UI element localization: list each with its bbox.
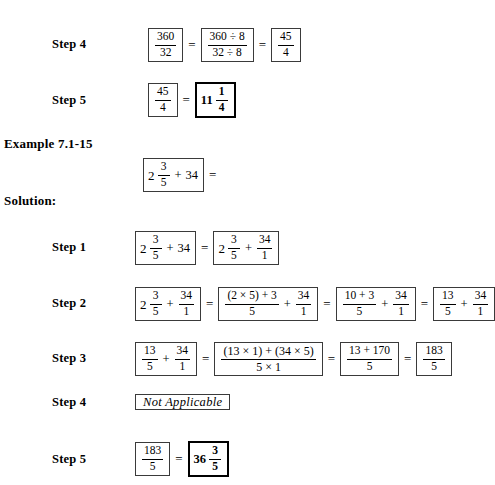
fraction-45-over-4: 45 4	[276, 30, 296, 59]
fraction-183-over-5: 183 5	[421, 344, 446, 373]
row-step-2: Step 2 2 3 5 + 34 1 = (2 × 5) +	[0, 281, 465, 327]
example-heading: Example 7.1-15	[4, 136, 93, 152]
fraction-3-over-5: 3 5	[226, 233, 242, 262]
fraction-box-360-32: 360 32	[148, 28, 183, 61]
plus-sign: +	[164, 298, 177, 311]
fraction-34-over-1: 34 1	[255, 233, 275, 262]
equals-sign: =	[399, 351, 416, 367]
whole-number: 2	[140, 242, 148, 255]
addend: 34	[177, 242, 192, 255]
denominator: 5	[247, 305, 257, 319]
box-mixed-2-3-5-plus-34: 2 3 5 + 34	[135, 231, 196, 264]
fraction-13-over-5: 13 5	[438, 289, 458, 318]
box-step2-term-1: 2 3 5 + 34 1	[135, 287, 201, 320]
whole-number: 36	[194, 453, 208, 466]
row-top-step-4: Step 4 360 32 = 360 ÷ 8 32 ÷ 8 =	[0, 22, 465, 68]
trailing-equals-sign: =	[204, 167, 216, 183]
step-label-2: Step 2	[52, 296, 86, 311]
numerator: 13	[440, 289, 456, 303]
step-label-top-5: Step 5	[52, 93, 86, 108]
row-step-3: Step 3 13 5 + 34 1 = (13 × 1) + (34 × 5)	[0, 336, 465, 382]
numerator: 3	[151, 233, 161, 247]
numerator: 3	[229, 233, 239, 247]
denominator: 1	[299, 305, 309, 319]
equals-sign: =	[318, 296, 335, 312]
fraction-34-over-1: 34 1	[391, 289, 411, 318]
equals-sign: =	[254, 37, 271, 53]
plus-sign: +	[378, 298, 391, 311]
numerator: 34	[179, 289, 195, 303]
whole-number: 2	[140, 298, 148, 311]
box-step3-term-3: 13 + 170 5	[340, 342, 399, 375]
row-step-4: Step 4 Not Applicable	[0, 390, 465, 414]
row-example-heading: Example 7.1-15	[0, 135, 465, 153]
expression-step-4: Not Applicable	[135, 390, 230, 414]
denominator: 5	[355, 305, 365, 319]
denominator: 1	[476, 305, 486, 319]
numerator: (2 × 5) + 3	[225, 289, 278, 303]
step-label-4: Step 4	[52, 395, 86, 410]
denominator: 5	[429, 360, 439, 374]
not-applicable-text: Not Applicable	[140, 396, 225, 409]
numerator: 34	[175, 344, 191, 358]
numerator: 3	[159, 160, 169, 174]
fraction-box-45-4: 45 4	[271, 28, 301, 61]
fraction-45-over-4: 45 4	[153, 85, 173, 114]
numerator: 183	[423, 344, 444, 358]
step-label-5: Step 5	[52, 452, 86, 467]
fraction-3-over-5: 3 5	[207, 444, 223, 473]
numerator: 360	[155, 30, 176, 44]
denominator: 1	[396, 305, 406, 319]
fraction-1-over-4: 1 4	[214, 85, 230, 114]
numerator: 1	[217, 85, 227, 99]
equals-sign: =	[323, 351, 340, 367]
numerator: 34	[296, 289, 312, 303]
plus-sign: +	[164, 242, 177, 255]
denominator: 1	[181, 305, 191, 319]
fraction-cross-multiply: (13 × 1) + (34 × 5) 5 × 1	[219, 344, 317, 374]
box-step2-term-3: 10 + 3 5 + 34 1	[336, 287, 416, 320]
denominator: 4	[281, 46, 291, 60]
numerator: 13	[142, 344, 158, 358]
step-label-1: Step 1	[52, 240, 86, 255]
expression-step-3: 13 5 + 34 1 = (13 × 1) + (34 × 5) 5 × 1	[135, 336, 452, 382]
box-step2-term-4: 13 5 + 34 1	[433, 287, 495, 320]
numerator: 3	[210, 444, 220, 458]
box-mixed-2-3-5-plus-34-over-1: 2 3 5 + 34 1	[213, 231, 279, 264]
denominator: 4	[158, 101, 168, 115]
row-step-1: Step 1 2 3 5 + 34 = 2 3 5 +	[0, 226, 465, 270]
box-step3-term-4: 183 5	[416, 342, 451, 375]
fraction-3-over-5: 3 5	[148, 233, 164, 262]
denominator: 1	[260, 249, 270, 263]
fraction-box-183-5: 183 5	[135, 442, 170, 475]
plus-sign: +	[458, 298, 471, 311]
solution-heading: Solution:	[4, 193, 56, 209]
box-step3-term-1: 13 5 + 34 1	[135, 342, 197, 375]
denominator: 5	[229, 249, 239, 263]
row-problem-statement: 2 3 5 + 34 =	[0, 155, 465, 195]
plus-sign: +	[172, 169, 185, 182]
denominator: 5	[151, 249, 161, 263]
denominator: 5	[151, 305, 161, 319]
denominator: 5	[148, 460, 158, 474]
numerator: 13 + 170	[347, 344, 392, 358]
box-step3-term-2: (13 × 1) + (34 × 5) 5 × 1	[214, 342, 322, 376]
expression-top-step-4: 360 32 = 360 ÷ 8 32 ÷ 8 = 45 4	[148, 22, 301, 68]
fraction-360div8-over-32div8: 360 ÷ 8 32 ÷ 8	[206, 30, 249, 59]
box-not-applicable: Not Applicable	[135, 394, 230, 411]
expression-top-step-5: 45 4 = 11 1 4	[148, 78, 236, 122]
denominator: 32	[158, 46, 174, 60]
equals-sign: =	[197, 351, 214, 367]
numerator: 34	[393, 289, 409, 303]
fraction-13-over-5: 13 5	[140, 344, 160, 373]
equals-sign: =	[183, 37, 200, 53]
plus-sign: +	[242, 242, 255, 255]
denominator: 5	[365, 360, 375, 374]
plus-sign: +	[160, 353, 173, 366]
equals-sign: =	[196, 240, 213, 256]
equals-sign: =	[178, 92, 195, 108]
fraction-34-over-1: 34 1	[294, 289, 314, 318]
step-label-3: Step 3	[52, 351, 86, 366]
addend: 34	[185, 169, 200, 182]
denominator: 5	[159, 176, 169, 190]
